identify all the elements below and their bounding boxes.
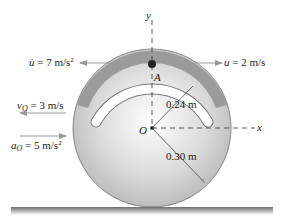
wheel-radius-label: 0.30 m <box>166 151 197 162</box>
x-axis-label: x <box>257 122 262 133</box>
slot-radius-label: 0.24 m <box>166 99 197 110</box>
center-velocity-label: vO = 3 m/s <box>17 100 64 113</box>
ground <box>11 207 273 215</box>
point-a-label: A <box>154 72 161 83</box>
slider-accel-label: u̇ = 7 m/s2 <box>29 57 74 68</box>
slider-point-a <box>148 60 156 68</box>
center-accel-label: aO = 5 m/s2 <box>11 140 62 153</box>
slider-velocity-label: u = 2 m/s <box>224 57 265 68</box>
point-o-label: O <box>139 125 147 136</box>
y-axis-label: y <box>146 10 151 21</box>
